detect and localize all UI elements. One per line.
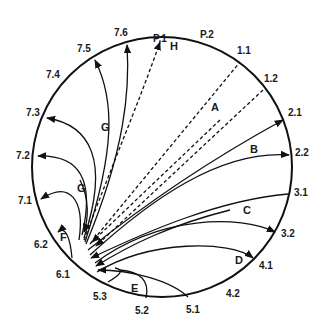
e-loops: [98, 268, 188, 298]
arrow-from-5-1: [98, 270, 188, 297]
label-3-2: 3.2: [281, 228, 295, 239]
label-p1: P.1: [153, 33, 167, 44]
region-h: H: [170, 40, 178, 52]
region-labels: A B C D E F G G H: [60, 40, 258, 294]
region-d: D: [235, 254, 243, 266]
region-g-upper: G: [101, 121, 110, 133]
arrow-to-2-2: [90, 155, 289, 255]
label-5-3: 5.3: [93, 291, 107, 302]
dashed-arrows: [84, 42, 263, 246]
label-4-1: 4.1: [259, 260, 273, 271]
region-g-lower: G: [77, 182, 86, 194]
label-6-2: 6.2: [34, 239, 48, 250]
label-2-1: 2.1: [288, 107, 302, 118]
region-e: E: [131, 282, 138, 294]
label-3-1: 3.1: [294, 187, 308, 198]
label-5-2: 5.2: [135, 305, 149, 316]
label-6-1: 6.1: [56, 269, 70, 280]
label-7-3: 7.3: [26, 107, 40, 118]
label-1-1: 1.1: [237, 45, 251, 56]
label-7-4: 7.4: [46, 69, 60, 80]
label-4-2: 4.2: [226, 288, 240, 299]
arrow-from-3-1-b: [96, 210, 230, 266]
region-b: B: [250, 143, 258, 155]
trajectory-circle-diagram: P.1 P.2 1.1 1.2 2.1 2.2 3.1 3.2 4.1 4.2 …: [0, 0, 323, 333]
label-1-2: 1.2: [264, 73, 278, 84]
label-7-2: 7.2: [16, 150, 30, 161]
label-p2: P.2: [200, 29, 214, 40]
region-a: A: [211, 101, 219, 113]
region-f: F: [60, 231, 67, 243]
arrow-to-7-3: [47, 118, 96, 238]
solid-arrows-right: [88, 120, 289, 272]
label-2-2: 2.2: [295, 147, 309, 158]
dashed-arrow-inner: [92, 120, 220, 242]
label-7-1: 7.1: [18, 195, 32, 206]
label-7-5: 7.5: [77, 43, 91, 54]
region-c: C: [243, 204, 251, 216]
dashed-line-to-1-1: [90, 62, 240, 244]
label-7-6: 7.6: [114, 27, 128, 38]
boundary-labels: P.1 P.2 1.1 1.2 2.1 2.2 3.1 3.2 4.1 4.2 …: [16, 27, 309, 316]
dashed-arrow-to-p1: [84, 42, 160, 240]
label-5-1: 5.1: [186, 304, 200, 315]
arrow-to-4-1: [97, 246, 253, 272]
